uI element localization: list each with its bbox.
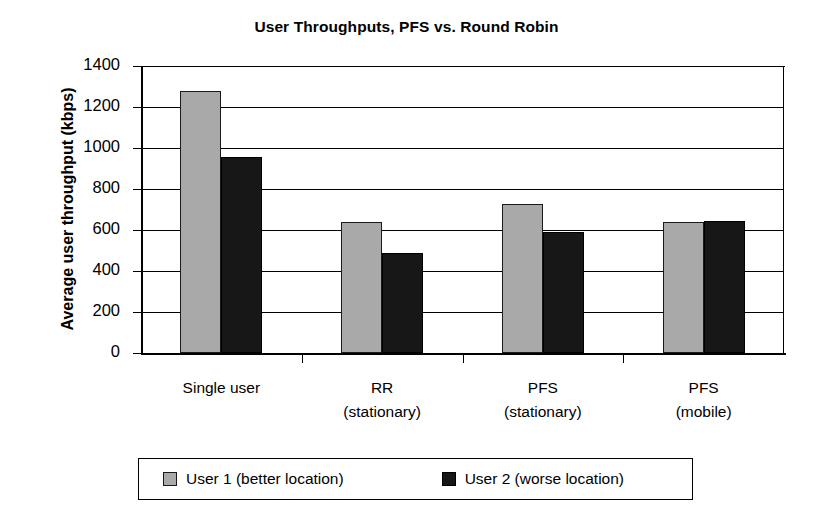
x-axis-category-label: PFS(mobile): [623, 376, 784, 424]
bar: [502, 204, 543, 353]
bar: [704, 221, 745, 353]
x-axis-category-line: PFS: [463, 376, 624, 400]
x-axis-tick: [302, 354, 303, 363]
legend: User 1 (better location) User 2 (worse l…: [138, 458, 693, 500]
bar: [382, 253, 423, 353]
x-axis-category-line: (stationary): [302, 400, 463, 424]
legend-swatch-icon-user-1: [163, 472, 177, 486]
bar: [663, 222, 704, 353]
x-axis-tick: [623, 354, 624, 363]
x-axis-category-line: PFS: [623, 376, 784, 400]
legend-swatch-icon-user-2: [442, 472, 456, 486]
y-axis-tick-label: 200: [0, 301, 120, 320]
bar-chart-figure: User Throughputs, PFS vs. Round Robin Av…: [0, 0, 813, 531]
legend-entry-user-1: User 1 (better location): [163, 470, 344, 488]
y-axis-tick-label: 1000: [0, 137, 120, 156]
legend-label-user-2: User 2 (worse location): [465, 470, 624, 488]
legend-label-user-1: User 1 (better location): [186, 470, 344, 488]
y-axis-tick-label: 600: [0, 219, 120, 238]
chart-title: User Throughputs, PFS vs. Round Robin: [0, 18, 813, 36]
y-axis-tick-label: 1400: [0, 55, 120, 74]
x-axis-category-line: Single user: [141, 376, 302, 400]
legend-entry-user-2: User 2 (worse location): [442, 470, 624, 488]
x-axis-category-label: PFS(stationary): [463, 376, 624, 424]
y-axis-tick-label: 800: [0, 178, 120, 197]
y-axis-tick-label: 0: [0, 342, 120, 361]
y-axis-tick-label: 400: [0, 260, 120, 279]
x-axis-category-line: RR: [302, 376, 463, 400]
y-axis-tick-label: 1200: [0, 96, 120, 115]
x-axis-category-line: (stationary): [463, 400, 624, 424]
bar: [543, 232, 584, 353]
bar: [180, 91, 221, 353]
x-axis-category-label: Single user: [141, 376, 302, 400]
x-axis-tick: [463, 354, 464, 363]
bar: [221, 157, 262, 353]
x-axis-category-label: RR(stationary): [302, 376, 463, 424]
x-axis-category-line: (mobile): [623, 400, 784, 424]
bar: [341, 222, 382, 353]
